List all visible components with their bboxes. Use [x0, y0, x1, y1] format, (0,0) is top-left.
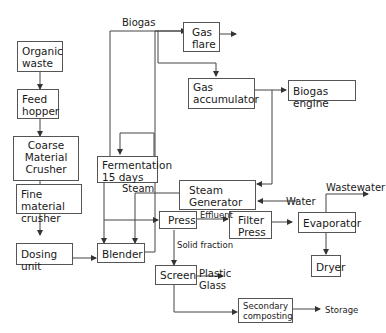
node-label: Dryer: [316, 261, 345, 273]
node-secondary-composting: Secondary composting: [238, 298, 293, 323]
node-label: Organic waste: [22, 45, 63, 69]
node-label: Evaporator: [303, 217, 361, 229]
label-glass: Glass: [199, 280, 226, 291]
label-wastewater: Wastewater: [326, 182, 385, 193]
node-press: Press: [159, 211, 197, 229]
node-filter-press: Filter Press: [229, 211, 272, 239]
label-steam: Steam: [122, 183, 154, 194]
node-label: Filter Press: [238, 214, 266, 238]
node-label: Gas flare: [192, 26, 216, 50]
node-label: Gas accumulator: [193, 81, 259, 105]
label-effluent: Effluent: [200, 210, 233, 221]
node-biogas-engine: Biogas engine: [288, 80, 356, 101]
node-label: Screen: [160, 269, 196, 281]
node-label: Steam Generator: [189, 184, 242, 208]
node-label: Coarse Material Crusher: [25, 139, 68, 175]
process-flow-diagram: Organic waste Feed hopper Coarse Materia…: [0, 0, 386, 333]
label-water: Water: [286, 196, 316, 207]
node-organic-waste: Organic waste: [17, 41, 63, 72]
node-label: Biogas engine: [293, 85, 329, 109]
node-dryer: Dryer: [311, 255, 341, 277]
node-coarse-material-crusher: Coarse Material Crusher: [13, 136, 79, 181]
node-fermentation: Fermentation 15 days: [97, 156, 158, 183]
node-label: Secondary composting: [243, 301, 293, 321]
label-storage: Storage: [325, 305, 358, 316]
node-label: Blender: [102, 248, 143, 260]
node-dosing-unit: Dosing unit: [16, 243, 73, 265]
node-gas-flare: Gas flare: [183, 22, 220, 52]
node-feed-hopper: Feed hopper: [17, 89, 59, 119]
node-blender: Blender: [97, 243, 145, 263]
node-label: Fine material crusher: [21, 188, 65, 224]
node-evaporator: Evaporator: [298, 212, 356, 233]
node-gas-accumulator: Gas accumulator: [188, 78, 255, 109]
node-label: Press: [168, 214, 196, 226]
node-steam-generator: Steam Generator: [179, 180, 256, 210]
node-label: Feed hopper: [22, 93, 59, 117]
label-biogas: Biogas: [122, 17, 155, 28]
label-plastic: Plastic: [199, 268, 231, 279]
label-solid-fraction: Solid fraction: [177, 240, 233, 251]
node-fine-material-crusher: Fine material crusher: [16, 184, 82, 214]
node-screen: Screen: [155, 265, 197, 285]
